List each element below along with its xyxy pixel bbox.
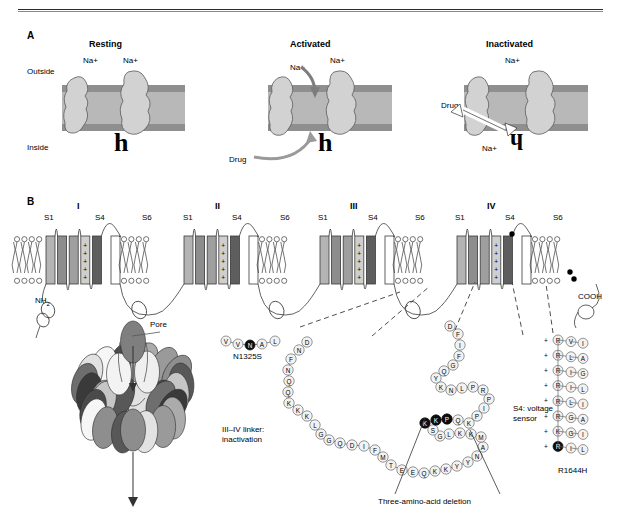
callout-n1325s [300, 292, 400, 327]
callout-linker-left [372, 286, 430, 336]
callout-lines [0, 0, 621, 523]
callout-linker-right [455, 282, 475, 330]
deletion-pointer-right [470, 430, 500, 494]
deletion-pointer-left [395, 418, 425, 494]
callout-s4-right [546, 284, 553, 333]
callout-s4-left [512, 282, 523, 335]
